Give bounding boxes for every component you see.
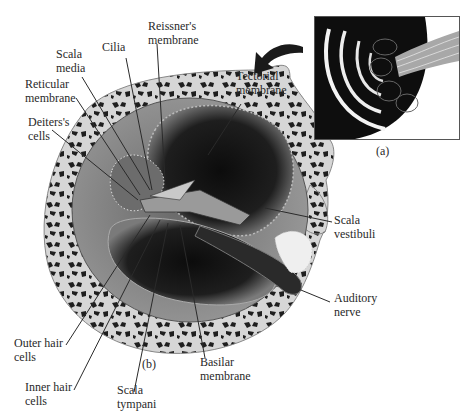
label-tectorial-membrane: Tectorial membrane: [236, 69, 287, 97]
spiral-cochlea-illustration: [315, 17, 459, 139]
label-reissners-membrane: Reissner's membrane: [148, 19, 199, 47]
label-inner-hair-cells: Inner hair cells: [25, 380, 72, 408]
label-basilar-membrane: Basilar membrane: [200, 355, 251, 383]
caption-a: (a): [376, 144, 389, 159]
label-scala-vestibuli: Scala vestibuli: [334, 213, 375, 241]
label-scala-media: Scala media: [56, 47, 85, 75]
label-deiters-cells: Deiters's cells: [28, 115, 69, 143]
label-auditory-nerve: Auditory nerve: [334, 291, 377, 319]
label-cilia: Cilia: [102, 40, 125, 54]
label-reticular-membrane: Reticular membrane: [25, 77, 76, 105]
label-scala-tympani: Scala tympani: [117, 383, 156, 411]
inset-panel-a: [314, 16, 460, 140]
label-outer-hair-cells: Outer hair cells: [14, 336, 63, 364]
caption-b: (b): [142, 357, 156, 372]
